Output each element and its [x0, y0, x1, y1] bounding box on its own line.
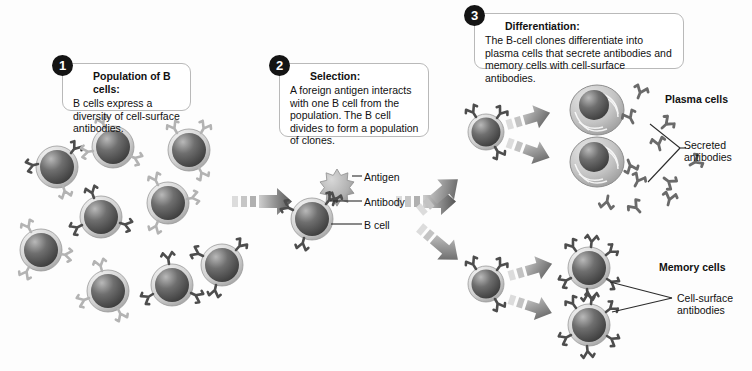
plasma-cells	[570, 85, 624, 187]
b-cell	[140, 252, 204, 306]
callout-step-3: 3 Differentiation: The B-cell clones dif…	[474, 13, 684, 69]
selection-group	[280, 169, 362, 251]
selected-b-cell	[280, 191, 339, 251]
label-b-cell: B cell	[364, 219, 390, 231]
step-body-1: B cells express a diversity of cell-surf…	[73, 97, 182, 135]
diagram-canvas: 1 Population of B cells: B cells express…	[0, 0, 752, 371]
arrow-to-memory-lower	[505, 288, 555, 325]
label-antibody: Antibody	[364, 196, 405, 208]
b-cell	[69, 185, 133, 238]
b-cell	[190, 237, 249, 297]
b-cell	[147, 172, 200, 234]
b-cell	[25, 140, 83, 199]
label-secreted-antibodies: Secreted antibodies	[684, 139, 748, 164]
arrow-branch-up	[411, 169, 466, 221]
memory-cell	[558, 235, 620, 301]
memory-cell	[558, 292, 620, 358]
b-cell	[76, 258, 129, 322]
step-title-2: Selection:	[310, 70, 420, 83]
arrow-to-memory-upper	[506, 252, 556, 287]
step-title-3: Differentiation:	[505, 20, 675, 33]
clone-cells	[464, 104, 509, 312]
arrow-to-plasma-lower	[503, 131, 553, 169]
step-number-badge-3: 3	[464, 5, 485, 26]
leader-cell-surface-antibodies	[610, 282, 672, 312]
plasma-cell	[570, 85, 624, 135]
clone-b-cell-lower	[464, 256, 509, 312]
label-antigen: Antigen	[364, 171, 400, 183]
memory-cells	[558, 235, 620, 358]
callout-step-2: 2 Selection: A foreign antigen interacts…	[279, 63, 429, 137]
label-plasma-cells: Plasma cells	[665, 93, 728, 105]
step-body-2: A foreign antigen interacts with one B c…	[290, 84, 420, 147]
plasma-cell	[570, 137, 624, 187]
clone-b-cell-upper	[464, 104, 509, 160]
b-cell	[18, 219, 72, 280]
arrow-to-plasma-upper	[504, 101, 554, 136]
step-number-badge-1: 1	[52, 55, 73, 76]
step-body-3: The B-cell clones differentiate into pla…	[485, 34, 675, 84]
callout-step-1: 1 Population of B cells: B cells express…	[62, 63, 191, 111]
leader-secreted-antibodies	[648, 124, 686, 182]
step-number-badge-2: 2	[269, 55, 290, 76]
arrow-branch-down	[411, 218, 466, 270]
b-cell-population	[18, 115, 249, 322]
label-cell-surface-antibodies: Cell-surface antibodies	[677, 292, 747, 317]
label-memory-cells: Memory cells	[659, 261, 726, 273]
step-title-1: Population of B cells:	[93, 70, 182, 96]
